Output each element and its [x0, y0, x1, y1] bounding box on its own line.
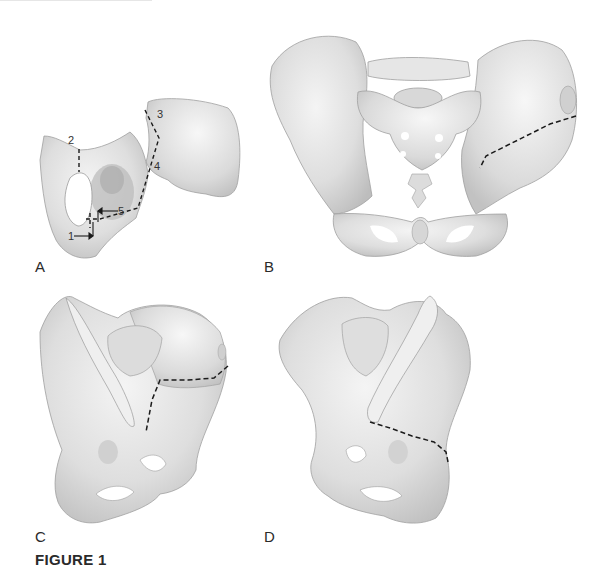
annotation-1: 1 — [68, 230, 74, 242]
annotation-4: 4 — [154, 160, 160, 172]
panel-d: D — [250, 280, 612, 540]
panel-label-d: D — [264, 528, 275, 545]
pelvis-anterior-illustration — [250, 0, 612, 280]
annotation-3: 3 — [157, 108, 163, 120]
figure-caption: FIGURE 1 — [35, 551, 107, 568]
panel-label-c: C — [35, 528, 46, 545]
panel-b: B — [250, 0, 612, 280]
annotation-2: 2 — [68, 134, 74, 146]
annotation-5: 5 — [118, 205, 124, 217]
panel-label-b: B — [264, 258, 274, 275]
pelvis-oblique-illustration-d — [250, 280, 612, 530]
panel-label-a: A — [35, 258, 45, 275]
